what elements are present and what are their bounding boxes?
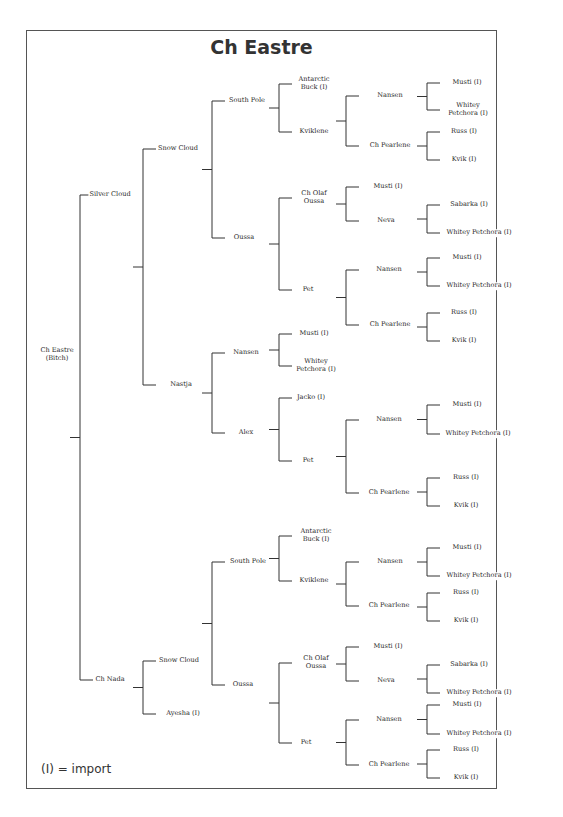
dog-node: Snow Cloud (157, 145, 199, 153)
dog-node: Russ (I) (452, 474, 480, 482)
dog-node: Nastja (169, 381, 193, 389)
dog-node: Nansen (375, 716, 402, 724)
dog-node: South Pole (229, 558, 267, 566)
dog-node: Pet (300, 739, 313, 747)
dog-node: Musti (I) (452, 254, 483, 262)
dog-node: Kvik (I) (451, 337, 478, 345)
dog-node: Whitey Petchora (I) (445, 229, 512, 237)
dog-node: Kviklene (299, 128, 330, 136)
dog-node: Kviklene (299, 577, 330, 585)
dog-node: WhiteyPetchora (I) (447, 102, 489, 117)
dog-node: Nansen (232, 349, 259, 357)
dog-node: Russ (I) (450, 128, 478, 136)
dog-node: Ch Pearlene (368, 761, 411, 769)
dog-node: Alex (238, 429, 255, 437)
dog-node: Kvik (I) (453, 774, 480, 782)
dog-node: Neva (376, 217, 395, 225)
dog-node: Snow Cloud (158, 657, 200, 665)
dog-node: Russ (I) (450, 309, 478, 317)
dog-node: Russ (I) (452, 589, 480, 597)
dog-node: Whitey Petchora (I) (444, 430, 511, 438)
dog-node: Whitey Petchora (I) (445, 282, 512, 290)
dog-node: Silver Cloud (88, 191, 131, 199)
dog-node: Ayesha (I) (165, 710, 201, 718)
dog-node: Kvik (I) (453, 502, 480, 510)
dog-node: South Pole (228, 97, 266, 105)
dog-node: Oussa (233, 234, 255, 242)
dog-node: Ch Pearlene (369, 321, 412, 329)
dog-node: Whitey Petchora (I) (445, 572, 512, 580)
dog-node: Musti (I) (452, 79, 483, 87)
legend-import: (I) = import (41, 762, 111, 776)
dog-node: Oussa (232, 681, 254, 689)
dog-node: AntarcticBuck (I) (300, 528, 333, 543)
dog-node: Pet (302, 457, 315, 465)
dog-node: Sabarka (I) (449, 661, 489, 669)
dog-node: Musti (I) (373, 643, 404, 651)
dog-node: Musti (I) (373, 183, 404, 191)
dog-node: Pet (302, 286, 315, 294)
dog-node: Ch Pearlene (368, 602, 411, 610)
dog-node: Whitey Petchora (I) (445, 730, 512, 738)
dog-node: Ch Pearlene (369, 142, 412, 150)
dog-node: Nansen (375, 416, 402, 424)
dog-node: Ch OlafOussa (302, 655, 329, 670)
dog-node: Musti (I) (452, 701, 483, 709)
dog-node: Musti (I) (452, 401, 483, 409)
dog-node: Nansen (376, 558, 403, 566)
dog-node: Jacko (I) (296, 394, 326, 402)
dog-node: Nansen (375, 266, 402, 274)
dog-node: Nansen (376, 92, 403, 100)
dog-node: Ch OlafOussa (300, 190, 327, 205)
dog-node: AntarcticBuck (I) (298, 76, 331, 91)
dog-node: Ch Nada (94, 676, 125, 684)
dog-node: Sabarka (I) (449, 201, 489, 209)
dog-node: Kvik (I) (453, 617, 480, 625)
dog-node: WhiteyPetchora (I) (295, 358, 337, 373)
dog-node: Musti (I) (452, 544, 483, 552)
dog-node: Russ (I) (452, 746, 480, 754)
dog-node: Ch Eastre(Bitch) (39, 347, 74, 362)
dog-node: Ch Pearlene (368, 489, 411, 497)
dog-node: Musti (I) (299, 330, 330, 338)
dog-node: Neva (376, 677, 395, 685)
dog-node: Kvik (I) (451, 156, 478, 164)
dog-node: Whitey Petchora (I) (445, 689, 512, 697)
